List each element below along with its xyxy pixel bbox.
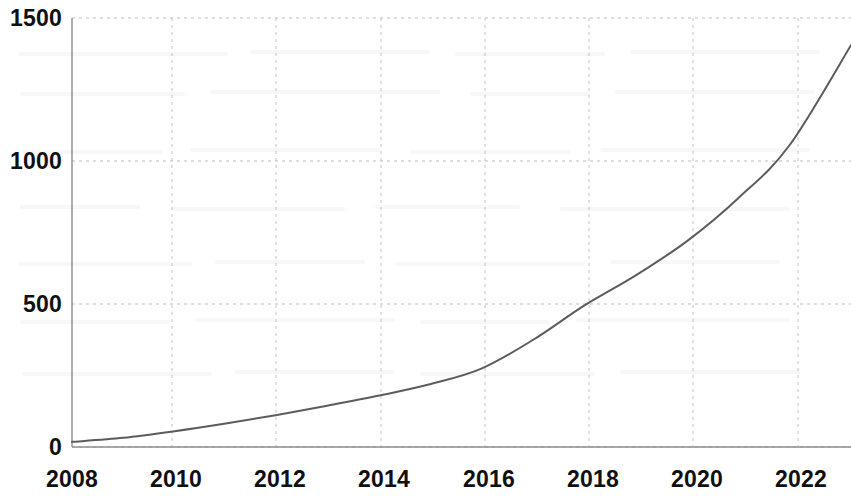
- x-tick-label-2018: 2018: [567, 466, 619, 493]
- x-tick-label-2010: 2010: [150, 466, 202, 493]
- data-line-series-1: [72, 45, 851, 442]
- y-tick-label-1000: 1000: [0, 148, 62, 175]
- x-tick-label-2012: 2012: [254, 466, 306, 493]
- line-chart-figure: 1500 1000 500 0 2008 2010 2012 2014 2016…: [0, 0, 851, 500]
- plot-area: [0, 0, 851, 500]
- x-tick-label-2022: 2022: [775, 466, 827, 493]
- x-tick-label-2020: 2020: [671, 466, 723, 493]
- chart-container: 1500 1000 500 0 2008 2010 2012 2014 2016…: [0, 0, 851, 500]
- y-tick-label-0: 0: [0, 434, 62, 461]
- y-tick-label-1500: 1500: [0, 5, 62, 32]
- y-tick-label-500: 500: [0, 291, 62, 318]
- x-tick-label-2014: 2014: [358, 466, 410, 493]
- horizontal-gridlines: [72, 18, 851, 447]
- x-tick-label-2008: 2008: [46, 466, 98, 493]
- x-tick-label-2016: 2016: [463, 466, 515, 493]
- vertical-gridlines: [172, 18, 798, 447]
